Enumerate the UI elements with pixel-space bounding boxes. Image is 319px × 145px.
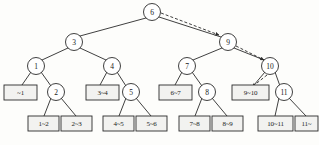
- search-path-arrows: [161, 13, 267, 87]
- tree-edge: [212, 98, 227, 116]
- tree-edge: [42, 48, 68, 60]
- tree-edge: [80, 18, 146, 36]
- tree-node-circle: [48, 84, 65, 101]
- tree-edge: [80, 48, 106, 60]
- tree-node-circle: [123, 84, 140, 101]
- tree-node-circle: [66, 34, 83, 51]
- tree-edge: [41, 72, 51, 86]
- tree-edge: [192, 72, 202, 86]
- tree-node-circle: [179, 58, 196, 75]
- leaf-box: [159, 85, 192, 100]
- tree-edge: [289, 98, 306, 116]
- leaf-box: [61, 116, 92, 131]
- tree-edge: [193, 48, 222, 60]
- leaf-box: [4, 85, 37, 100]
- leaf-box: [136, 116, 167, 131]
- leaf-box: [86, 85, 119, 100]
- tree-edge: [44, 98, 51, 116]
- tree-node-circle: [276, 84, 293, 101]
- tree-edge: [195, 98, 202, 116]
- leaf-box: [28, 116, 59, 131]
- tree-node-circle: [28, 58, 45, 75]
- leaf-box: [232, 85, 269, 100]
- leaf-box: [103, 116, 134, 131]
- tree-node-circle: [220, 34, 237, 51]
- tree-node-circle: [104, 58, 121, 75]
- leaf-box: [258, 116, 293, 131]
- tree-edge: [61, 98, 76, 116]
- tree-edge: [275, 72, 280, 86]
- tree-edge: [159, 17, 221, 37]
- tree-diagram-canvas: [0, 0, 319, 145]
- tree-node-circle: [199, 84, 216, 101]
- tree-edge: [119, 98, 126, 116]
- leaf-box: [179, 116, 210, 131]
- tree-edge: [117, 72, 126, 86]
- tree-node-circle: [262, 58, 279, 75]
- tree-node-circle: [144, 4, 161, 21]
- tree-diagram: ~13~46~79~101~22~34~55~67~88~910~1111~63…: [0, 0, 319, 145]
- tree-edge: [175, 72, 182, 85]
- tree-edge: [22, 72, 31, 85]
- search-path-arrow: [236, 46, 264, 60]
- leaf-box: [295, 116, 318, 131]
- search-path-arrow: [161, 13, 219, 35]
- tree-edge: [254, 72, 265, 85]
- leaf-box: [212, 116, 243, 131]
- tree-edge: [275, 98, 279, 116]
- tree-edge: [100, 72, 107, 85]
- tree-edge: [136, 98, 151, 116]
